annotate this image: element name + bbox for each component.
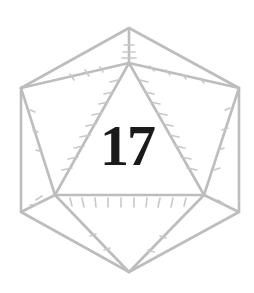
die-face-number: 17 bbox=[0, 117, 254, 175]
